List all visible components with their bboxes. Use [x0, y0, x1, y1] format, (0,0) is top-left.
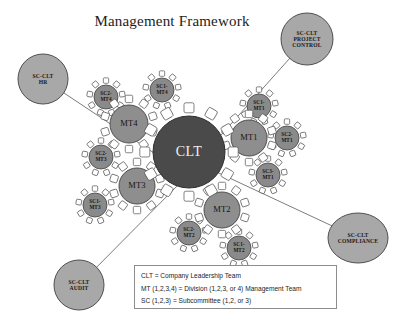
circle-sc2-mt3	[89, 145, 113, 169]
sc3-mt1-chair	[249, 169, 255, 175]
sc2-mt3-chair	[92, 169, 99, 176]
mt2-chair	[240, 213, 249, 222]
sc1-mt3-chair	[106, 210, 113, 217]
sc2-mt4-chair	[88, 102, 95, 109]
sc2-mt2-chair	[180, 245, 187, 252]
sc2-mt2-chair	[200, 238, 207, 245]
sc1-mt2-chair	[220, 242, 226, 248]
circle-sc-clt-audit[interactable]	[54, 260, 104, 310]
sc3-mt1-chair	[270, 187, 277, 194]
circle-sc-clt-compliance[interactable]	[328, 213, 388, 263]
sc2-mt2-chair	[186, 214, 191, 219]
sc1-mt4-chair	[169, 74, 177, 82]
legend-box: CLT = Company Leadership Team MT (1,2,3,…	[134, 265, 337, 309]
sc1-mt1-chair	[245, 90, 253, 98]
mt2-chair	[240, 198, 249, 207]
sc1-mt4-chair	[175, 84, 181, 90]
sc2-mt2-chair	[170, 227, 176, 233]
sc1-mt3-chair	[76, 199, 82, 205]
circle-mt2	[204, 192, 240, 228]
sc2-mt4-chair	[87, 91, 93, 97]
circle-sc1-mt3	[83, 193, 107, 217]
node-sc3-mt1	[249, 156, 288, 194]
sc2-mt1-chair	[298, 143, 305, 150]
sc2-mt3-chair	[103, 169, 110, 176]
mt2-chair	[218, 182, 225, 189]
circle-sc1-mt4	[150, 78, 174, 102]
sc2-mt3-chair	[112, 162, 119, 169]
sc1-mt4-chair	[159, 71, 164, 76]
sc2-mt1-chair	[278, 150, 285, 157]
sc2-mt4-chair	[113, 81, 121, 89]
sc3-mt1-chair	[279, 180, 286, 187]
sc1-mt2-chair	[250, 253, 257, 260]
sc1-mt1-chair	[272, 100, 278, 106]
mt1-chair	[245, 110, 252, 117]
sc1-mt3-chair	[102, 189, 110, 197]
sc2-mt1-chair	[289, 150, 296, 157]
sc2-mt2-chair	[175, 217, 183, 225]
mt4-chair	[125, 95, 132, 102]
legend-row: SC (1,2,3) = Subcommittee (1,2, or 3)	[141, 295, 336, 308]
sc3-mt1-chair	[275, 159, 283, 167]
node-sc2-mt1	[268, 119, 307, 157]
sc1-mt3-chair	[81, 189, 89, 197]
mt3-chair	[109, 174, 118, 183]
node-sc1-mt3	[76, 186, 115, 224]
clt-chair	[204, 107, 218, 121]
sc2-mt3-chair	[87, 141, 95, 149]
mt3-chair	[109, 189, 118, 198]
mt4-chair	[125, 145, 132, 152]
sc2-mt3-chair	[82, 151, 88, 157]
mt3-chair	[133, 158, 140, 165]
sc2-mt3-chair	[98, 138, 103, 143]
sc1-mt1-chair	[256, 87, 261, 92]
mt3-chair	[133, 206, 140, 213]
mt2-chair	[231, 185, 241, 195]
sc1-mt1-chair	[240, 100, 246, 106]
sc2-mt1-chair	[300, 132, 306, 138]
sc1-mt2-chair	[252, 242, 258, 248]
circle-clt	[153, 116, 225, 188]
sc2-mt1-chair	[294, 122, 302, 130]
circle-sc-clt-project-control[interactable]	[281, 13, 333, 65]
diagram-page: Management Framework SC2-MT4SC1-MT4SC1-M…	[0, 0, 401, 318]
sc1-mt1-chair	[270, 111, 277, 118]
circle-sc-clt-hr[interactable]	[18, 54, 68, 104]
mt4-chair	[109, 139, 119, 149]
mt3-chair	[118, 161, 128, 171]
clt-chair	[228, 147, 238, 157]
sc2-mt2-chair	[191, 245, 198, 252]
clt-chair	[184, 103, 194, 113]
sc1-mt1-chair	[266, 90, 274, 98]
mt2-chair	[218, 230, 225, 237]
circle-sc2-mt1	[275, 126, 299, 150]
mt4-chair	[148, 112, 157, 121]
sc1-mt3-chair	[86, 217, 93, 224]
sc3-mt1-chair	[281, 169, 287, 175]
page-title: Management Framework	[72, 13, 272, 30]
sc2-mt4-chair	[92, 81, 100, 89]
sc1-mt4-chair	[153, 102, 160, 109]
sc2-mt1-chair	[284, 119, 289, 124]
clt-chair	[140, 147, 150, 157]
circle-sc3-mt1	[256, 163, 280, 187]
sc2-mt2-chair	[171, 238, 178, 245]
sc1-mt3-chair	[77, 210, 84, 217]
circle-mt4	[110, 105, 148, 143]
sc2-mt3-chair	[114, 151, 120, 157]
sc1-mt3-chair	[108, 199, 114, 205]
sc3-mt1-chair	[259, 187, 266, 194]
sc1-mt3-chair	[92, 186, 97, 191]
circle-sc1-mt2	[227, 236, 251, 260]
legend-row: CLT = Company Leadership Team	[141, 270, 336, 283]
mt2-chair	[194, 198, 203, 207]
sc1-mt2-chair	[246, 232, 254, 240]
sc3-mt1-chair	[250, 180, 257, 187]
mt4-chair	[100, 127, 109, 136]
sc2-mt4-chair	[119, 91, 125, 97]
sc1-mt4-chair	[148, 74, 156, 82]
mt3-chair	[118, 200, 128, 210]
sc1-mt2-chair	[221, 253, 228, 260]
sc2-mt4-chair	[103, 78, 108, 83]
